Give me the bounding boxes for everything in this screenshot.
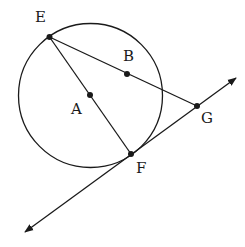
point-E [47,34,53,40]
point-G [194,103,200,109]
point-F [128,151,134,157]
label-F: F [136,159,146,177]
point-B [124,71,130,77]
label-B: B [123,47,134,65]
label-E: E [35,8,46,26]
point-A [87,92,93,98]
label-G: G [201,109,213,127]
geometry-diagram: E A B G F [0,0,245,247]
label-A: A [70,100,82,118]
